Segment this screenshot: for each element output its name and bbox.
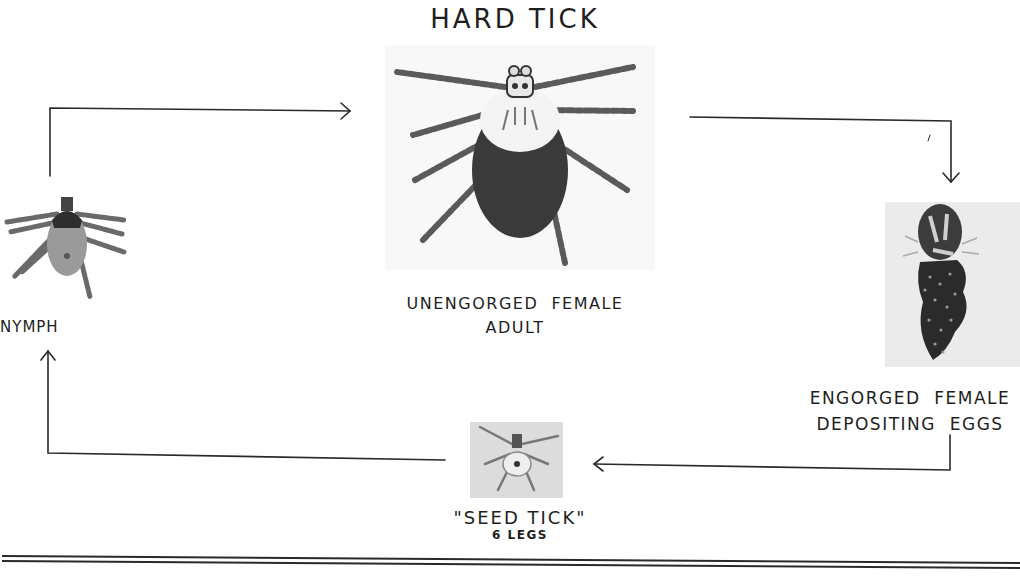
arrow-adult-to-engorged xyxy=(690,117,951,182)
seed-tick-image xyxy=(470,422,563,498)
engorged-female-eggs-image xyxy=(885,202,1020,367)
nymph-tick-image xyxy=(2,192,130,304)
adult-label-line2: ADULT xyxy=(486,318,545,337)
unengorged-female-tick-image xyxy=(385,45,655,270)
adult-label-line1: UNENGORGED FEMALE xyxy=(407,294,624,313)
engorged-label-line1: ENGORGED FEMALE xyxy=(810,388,1011,408)
arrow-seed-to-nymph xyxy=(48,351,445,460)
seed-tick-sublabel: 6 LEGS xyxy=(430,528,610,542)
adult-stage-label: UNENGORGED FEMALE ADULT xyxy=(385,292,645,340)
nymph-stage-label: NYMPH xyxy=(0,318,80,336)
engorged-stage-label: ENGORGED FEMALE DEPOSITING EGGS xyxy=(800,385,1020,437)
seed-tick-label: "SEED TICK" xyxy=(430,508,610,528)
arrow-engorged-to-seed xyxy=(594,435,950,470)
bottom-rule xyxy=(2,556,1020,568)
engorged-label-line2: DEPOSITING EGGS xyxy=(816,414,1003,434)
arrow-nymph-to-adult xyxy=(50,108,350,176)
